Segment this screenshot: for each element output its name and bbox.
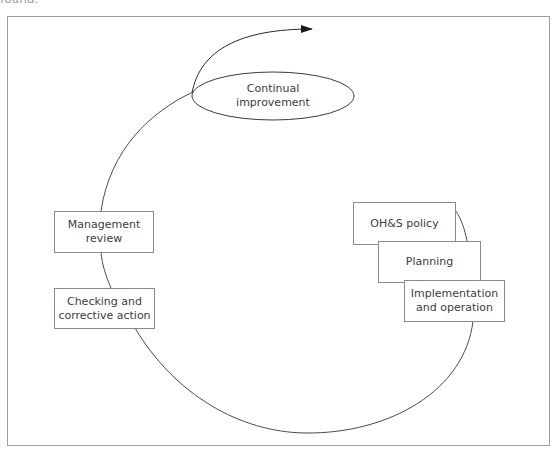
continual-improvement-line1: Continual xyxy=(212,82,334,96)
continual-improvement-label: Continual improvement xyxy=(212,82,334,110)
node-implementation-line2: and operation xyxy=(411,301,498,315)
node-implementation-operation: Implementation and operation xyxy=(404,280,505,322)
cycle-arc-mid-left xyxy=(101,252,111,288)
cycle-arc-top-left xyxy=(101,92,193,211)
node-checking-corrective-action: Checking and corrective action xyxy=(54,288,155,329)
node-checking-line2: corrective action xyxy=(58,309,150,323)
node-management-review: Management review xyxy=(54,211,154,253)
node-implementation-line1: Implementation xyxy=(411,287,498,301)
node-planning-line1: Planning xyxy=(406,255,453,269)
cycle-arc-bottom xyxy=(135,321,473,433)
cycle-arc-right xyxy=(455,210,467,241)
node-checking-line1: Checking and xyxy=(58,295,150,309)
node-planning: Planning xyxy=(378,241,481,283)
node-ohs-policy-line1: OH&S policy xyxy=(370,217,438,231)
node-ohs-policy: OH&S policy xyxy=(353,202,456,245)
node-management-review-line2: review xyxy=(68,232,140,246)
node-management-review-line1: Management xyxy=(68,218,140,232)
continual-improvement-line2: improvement xyxy=(212,96,334,110)
